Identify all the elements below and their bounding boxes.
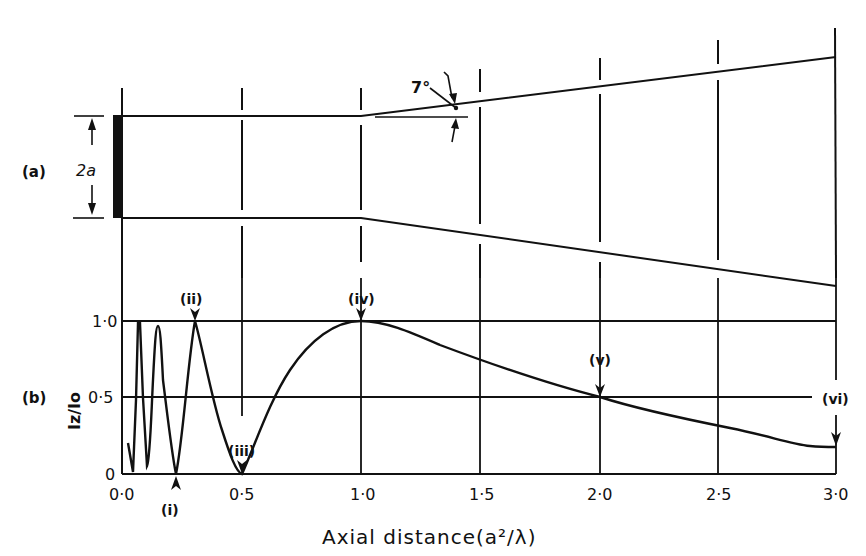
marker-i-icon	[171, 476, 181, 490]
figure: (a) 2a 7° (b) Iz/Io 1·0 0·5 0 0·0 0·5 1·…	[0, 0, 866, 556]
annotation-iv: (iv)	[348, 291, 375, 307]
x-tick-0: 0·0	[109, 485, 134, 504]
arrow-down-small-icon	[449, 93, 457, 104]
x-tick-3: 3·0	[823, 485, 848, 504]
arrow-up-icon	[88, 118, 96, 130]
x-tick-1: 1·0	[350, 485, 375, 504]
y-axis-label: Iz/Io	[65, 392, 84, 430]
aperture-label: 2a	[76, 161, 96, 180]
x-tick-1-5: 1·5	[469, 485, 494, 504]
figure-svg: (a) 2a 7° (b) Iz/Io 1·0 0·5 0 0·0 0·5 1·…	[0, 0, 866, 556]
arrow-up-small-icon	[451, 118, 459, 129]
panel-b-label: (b)	[22, 389, 46, 407]
annotation-v: (v)	[589, 352, 611, 368]
annotation-ii: (ii)	[180, 291, 202, 307]
panel-a-label: (a)	[22, 163, 46, 181]
annotation-markers	[171, 308, 841, 490]
panel-a-diagram	[73, 28, 836, 286]
x-tick-0-5: 0·5	[229, 485, 254, 504]
x-axis-label: Axial distance(a²/λ)	[322, 525, 536, 549]
x-tick-2-5: 2·5	[706, 485, 731, 504]
annotation-vi: (vi)	[822, 391, 849, 407]
x-tick-2: 2·0	[587, 485, 612, 504]
y-tick-1: 1·0	[92, 312, 117, 331]
panel-a-grid	[242, 28, 836, 278]
arrow-down-icon	[88, 203, 96, 215]
annotation-iii: (iii)	[228, 443, 255, 459]
annotation-i: (i)	[161, 502, 179, 518]
y-tick-0-5: 0·5	[88, 388, 113, 407]
y-tick-0: 0	[105, 465, 115, 484]
angle-label: 7°	[411, 78, 430, 97]
marker-ii-icon	[190, 308, 200, 321]
